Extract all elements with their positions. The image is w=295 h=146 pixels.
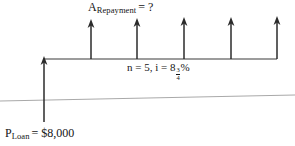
interest-fraction: 34 (176, 67, 180, 81)
loan-subscript: Loan (12, 131, 30, 141)
repayment-arrow (228, 17, 235, 59)
repayment-symbol: A (88, 0, 97, 14)
cash-flow-diagram: ARepayment= ? n = 5, i = 834% PLoan= $8,… (0, 0, 295, 146)
loan-label: PLoan= $8,000 (5, 127, 74, 141)
repayment-subscript: Repayment (97, 5, 137, 15)
terms-label: n = 5, i = 834% (127, 62, 190, 82)
interest-prefix: i = 8 (155, 61, 175, 73)
repayment-arrow (134, 18, 141, 59)
fraction-numerator: 3 (176, 67, 180, 74)
repayment-arrow (88, 19, 95, 59)
interest-suffix: % (181, 61, 190, 73)
repayment-arrow (181, 17, 188, 59)
repayment-value: = ? (138, 0, 153, 14)
loan-symbol: P (5, 126, 12, 140)
repayment-arrow (274, 16, 281, 59)
loan-value: = $8,000 (32, 126, 75, 140)
repayment-label: ARepayment= ? (88, 1, 153, 15)
loan-principal-arrow (41, 56, 48, 122)
fraction-denominator: 4 (176, 74, 180, 82)
periods-text: n = 5, (127, 61, 152, 73)
